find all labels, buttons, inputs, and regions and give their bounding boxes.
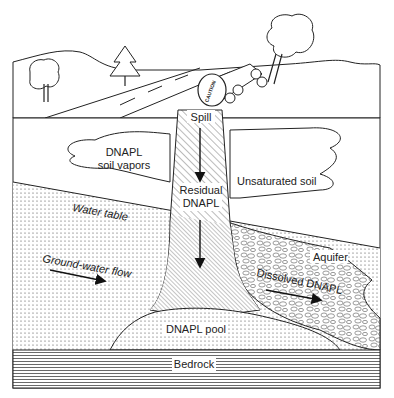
unsaturated-soil-label: Unsaturated soil bbox=[237, 175, 317, 187]
spill-label: Spill bbox=[191, 111, 212, 123]
bedrock-label: Bedrock bbox=[174, 358, 215, 370]
dnapl-pool-label: DNAPL pool bbox=[166, 323, 226, 335]
residual-label-2: DNAPL bbox=[183, 197, 220, 209]
residual-label-1: Residual bbox=[180, 184, 223, 196]
soil-vapors-label-2: soil vapors bbox=[98, 159, 151, 171]
surface-landscape: CAUTION bbox=[13, 14, 380, 118]
soil-vapors-label-1: DNAPL bbox=[106, 146, 143, 158]
aquifer-label: Aquifer bbox=[313, 251, 348, 263]
dnapl-diagram: CAUTION Spill DNAPL soil vapors Residual… bbox=[0, 0, 394, 398]
unsaturated-cloud bbox=[230, 128, 340, 198]
